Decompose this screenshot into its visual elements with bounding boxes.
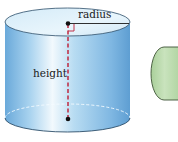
top-center-point	[66, 21, 71, 26]
height-label: height	[33, 67, 68, 79]
radius-label: radius	[78, 8, 112, 20]
partial-green-cylinder	[151, 47, 178, 100]
bottom-center-point	[66, 117, 71, 122]
cylinder-diagram: radius height	[0, 0, 178, 142]
